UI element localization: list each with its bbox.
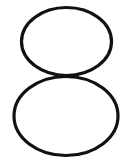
digit-eight-glyph [0,0,133,163]
top-loop [22,8,112,76]
bottom-loop [14,77,118,156]
